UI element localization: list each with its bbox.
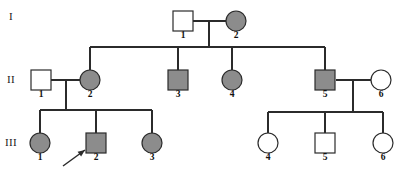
pedigree-chart: 12123456123456 IIIIII (0, 0, 401, 174)
individual-circle-ii-6[interactable] (371, 70, 391, 90)
individual-number-iii-4: 4 (266, 152, 271, 162)
individual-circle-iii-1[interactable] (30, 133, 50, 153)
individual-circle-iii-3[interactable] (142, 133, 162, 153)
generation-label-ii: II (7, 73, 15, 85)
individual-number-ii-5: 5 (323, 89, 328, 99)
individual-number-i-1: 1 (181, 30, 186, 40)
individual-number-ii-3: 3 (176, 89, 181, 99)
individual-number-ii-2: 2 (88, 89, 93, 99)
individual-number-ii-6: 6 (379, 89, 384, 99)
individual-circle-iii-6[interactable] (373, 133, 393, 153)
proband-arrow (63, 150, 85, 166)
individual-square-ii-5[interactable] (315, 70, 335, 90)
generation-label-iii: III (5, 136, 17, 148)
individual-number-iii-1: 1 (38, 152, 43, 162)
individual-square-iii-2[interactable] (86, 133, 106, 153)
proband-arrow-head (78, 150, 85, 157)
individual-number-i-2: 2 (234, 30, 239, 40)
individual-circle-iii-4[interactable] (258, 133, 278, 153)
individual-square-ii-3[interactable] (168, 70, 188, 90)
pedigree-canvas: 12123456123456 IIIIII (0, 0, 401, 174)
individual-symbols: 12123456123456 (30, 11, 393, 162)
individual-number-iii-3: 3 (150, 152, 155, 162)
individual-square-ii-1[interactable] (31, 70, 51, 90)
individual-square-i-1[interactable] (173, 11, 193, 31)
individual-circle-ii-2[interactable] (80, 70, 100, 90)
generation-label-i: I (9, 10, 13, 22)
individual-circle-ii-4[interactable] (222, 70, 242, 90)
individual-circle-i-2[interactable] (226, 11, 246, 31)
individual-number-iii-2: 2 (94, 152, 99, 162)
individual-number-iii-5: 5 (323, 152, 328, 162)
individual-number-iii-6: 6 (381, 152, 386, 162)
individual-square-iii-5[interactable] (315, 133, 335, 153)
generation-labels: IIIIII (5, 10, 17, 148)
individual-number-ii-4: 4 (230, 89, 235, 99)
individual-number-ii-1: 1 (39, 89, 44, 99)
